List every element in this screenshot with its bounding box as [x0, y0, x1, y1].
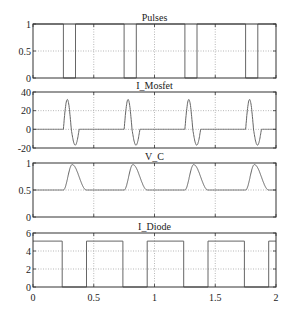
subplot-title: V_C [145, 151, 164, 162]
subplot-title: Pulses [142, 12, 168, 23]
subplot-title: I_Diode [138, 221, 171, 232]
y-tick-label: 4 [26, 246, 31, 257]
subplot-v-c: 00.51V_C [19, 151, 277, 223]
subplot-i-diode: 024600.511.52I_Diode [26, 221, 279, 303]
y-tick-label: 0 [26, 282, 31, 293]
x-tick-label: 2 [274, 292, 279, 303]
y-tick-label: -20 [18, 143, 31, 154]
y-tick-label: 0.5 [19, 46, 32, 57]
x-tick-label: 1.5 [209, 292, 222, 303]
y-tick-label: 40 [21, 87, 31, 98]
y-tick-label: 1 [26, 158, 31, 169]
y-tick-label: 0.5 [19, 185, 32, 196]
grid-lines [33, 92, 276, 148]
x-tick-label: 1 [152, 292, 157, 303]
x-tick-label: 0 [31, 292, 36, 303]
y-tick-label: 1 [26, 19, 31, 30]
y-tick-label: 0 [26, 212, 31, 223]
x-tick-label: 0.5 [88, 292, 101, 303]
y-tick-label: 0 [26, 124, 31, 135]
subplot-title: I_Mosfet [136, 80, 173, 91]
y-tick-label: 20 [21, 105, 31, 116]
y-tick-label: 6 [26, 228, 31, 239]
figure: 00.51Pulses-2002040I_Mosfet00.51V_C02460… [0, 0, 293, 317]
subplot-i-mosfet: -2002040I_Mosfet [18, 80, 276, 154]
grid-lines [33, 24, 276, 78]
y-tick-label: 2 [26, 264, 31, 275]
y-tick-label: 0 [26, 73, 31, 84]
subplot-pulses: 00.51Pulses [19, 12, 277, 84]
series-line [33, 241, 276, 287]
